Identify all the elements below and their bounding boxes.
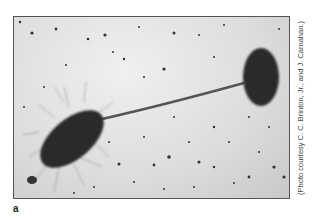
panel-label: a xyxy=(13,203,19,214)
photo-credit: (Photo courtesy C. C. Brinton, Jr., and … xyxy=(296,21,305,195)
bacteria-conjugation-image xyxy=(14,17,290,199)
micrograph-photo xyxy=(13,16,290,199)
